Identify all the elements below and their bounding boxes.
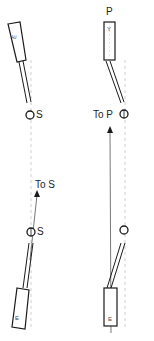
right-top-rod-b [110, 61, 124, 102]
left-top-block-label: E [11, 35, 18, 40]
left-bottom-block [12, 288, 29, 329]
right-arrow-head [107, 126, 113, 133]
right-top-rod-a [106, 61, 121, 103]
right-bottom-rod-b [111, 243, 125, 288]
left-arrow-label: To S [35, 180, 55, 190]
right-top-block-label: Y [107, 26, 111, 32]
left-top-rod-b [23, 61, 31, 102]
left-top-rod-a [19, 62, 27, 103]
left-arrow-head [34, 190, 40, 197]
left-bottom-block-label: E [15, 315, 19, 321]
right-arrow-label: To P [93, 110, 113, 120]
right-bottom-block-label: E [108, 316, 112, 322]
left-bottom-pivot-label: S [37, 227, 44, 237]
right-bottom-pivot [120, 226, 128, 234]
right-bottom-rod-a [107, 243, 121, 288]
diagram-canvas [0, 0, 154, 341]
left-top-block [8, 22, 26, 62]
left-top-pivot [26, 111, 34, 119]
left-panel [8, 22, 40, 330]
right-top-label: P [106, 7, 113, 17]
right-panel [104, 22, 128, 333]
left-top-pivot-label: S [36, 110, 43, 120]
